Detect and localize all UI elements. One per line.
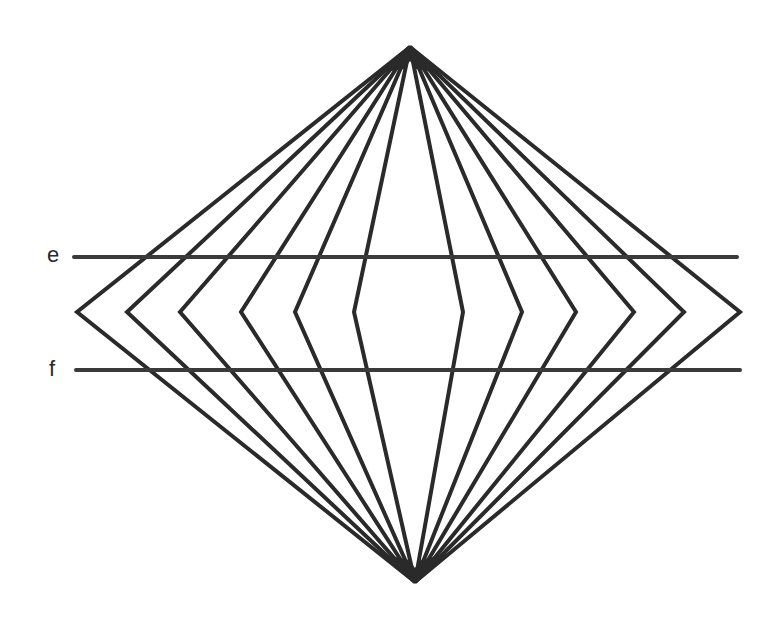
ray-10 <box>410 47 684 582</box>
ray-6 <box>410 47 463 582</box>
top-apex-fill <box>378 45 442 73</box>
ray-1 <box>127 47 415 582</box>
bottom-apex-fill <box>383 554 447 584</box>
label-e: e <box>47 244 59 266</box>
illusion-figure <box>0 0 779 629</box>
converging-rays <box>77 47 740 582</box>
label-f: f <box>49 358 55 380</box>
